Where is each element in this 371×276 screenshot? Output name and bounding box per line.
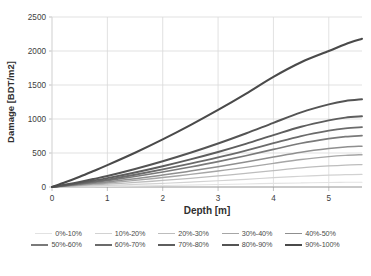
- legend-item[interactable]: 90%-100%: [285, 241, 339, 248]
- y-tick-label: 1000: [28, 115, 47, 124]
- legend-line-icon: [35, 233, 52, 234]
- legend-line-icon: [95, 244, 112, 246]
- x-tick-label: 0: [50, 194, 55, 203]
- legend-line-icon: [285, 244, 302, 246]
- legend-label: 70%-80%: [178, 241, 208, 248]
- legend-label: 0%-10%: [55, 230, 82, 237]
- legend-label: 10%-20%: [115, 230, 145, 237]
- y-axis-title: Damage [BDT/m2]: [5, 61, 16, 143]
- legend-item[interactable]: 40%-50%: [285, 230, 335, 237]
- legend-line-icon: [158, 233, 175, 234]
- y-tick-label: 2000: [28, 47, 47, 56]
- legend-item[interactable]: 20%-30%: [158, 230, 208, 237]
- legend-item[interactable]: 70%-80%: [158, 241, 208, 248]
- legend-label: 90%-100%: [305, 241, 339, 248]
- y-tick-label: 1500: [28, 81, 47, 90]
- legend-line-icon: [222, 233, 239, 234]
- legend-line-icon: [31, 244, 48, 246]
- legend-item[interactable]: 60%-70%: [95, 241, 145, 248]
- legend-item[interactable]: 80%-90%: [222, 241, 272, 248]
- x-tick-label: 2: [160, 194, 165, 203]
- legend-line-icon: [285, 233, 302, 235]
- legend-item[interactable]: 10%-20%: [95, 230, 145, 237]
- chart-container: 05001000150020002500012345 Depth [m] Dam…: [0, 0, 371, 276]
- x-axis-title: Depth [m]: [184, 205, 231, 216]
- line-chart-plot: 05001000150020002500012345 Depth [m] Dam…: [0, 0, 371, 230]
- chart-legend: 0%-10% 10%-20% 20%-30% 30%-40% 40%-50%: [0, 228, 371, 274]
- legend-line-icon: [95, 233, 112, 234]
- legend-label: 60%-70%: [115, 241, 145, 248]
- x-tick-label: 5: [327, 194, 332, 203]
- legend-row: 0%-10% 10%-20% 20%-30% 30%-40% 40%-50%: [0, 230, 371, 237]
- legend-item[interactable]: 0%-10%: [35, 230, 82, 237]
- legend-label: 40%-50%: [305, 230, 335, 237]
- legend-item[interactable]: 30%-40%: [222, 230, 272, 237]
- y-tick-label: 2500: [28, 13, 47, 22]
- y-tick-label: 0: [41, 183, 46, 192]
- legend-label: 50%-60%: [51, 241, 81, 248]
- legend-label: 30%-40%: [242, 230, 272, 237]
- legend-line-icon: [222, 244, 239, 246]
- legend-item[interactable]: 50%-60%: [31, 241, 81, 248]
- y-tick-label: 500: [32, 149, 46, 158]
- legend-row: 50%-60% 60%-70% 70%-80% 80%-90% 90%-100%: [0, 241, 371, 248]
- plot-background: [0, 0, 371, 230]
- legend-label: 20%-30%: [178, 230, 208, 237]
- legend-label: 80%-90%: [242, 241, 272, 248]
- x-tick-label: 3: [216, 194, 221, 203]
- x-tick-label: 1: [105, 194, 110, 203]
- legend-line-icon: [158, 244, 175, 246]
- x-tick-label: 4: [271, 194, 276, 203]
